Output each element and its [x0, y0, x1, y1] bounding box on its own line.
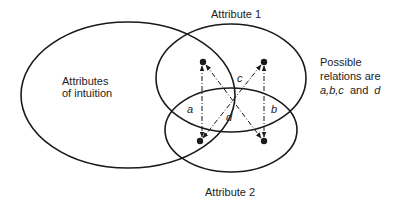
relation-a-label: a	[187, 103, 193, 115]
intuition-label-line1: Attributes	[62, 75, 109, 87]
note-and: and	[350, 84, 368, 96]
note-line2: relations are	[320, 70, 381, 82]
note-line3: a,b,c and d	[320, 84, 381, 96]
relation-d-label: d	[226, 111, 233, 123]
venn-diagram: a b c d Attributes of intuition Attribut…	[0, 0, 403, 205]
note-last-relation: d	[374, 84, 381, 96]
node-attr1-left	[200, 59, 206, 65]
node-attr1-right	[261, 59, 267, 65]
attribute2-ellipse	[165, 88, 297, 172]
intuition-label-line2: of intuition	[62, 87, 112, 99]
node-attr2-right	[261, 138, 267, 144]
intuition-ellipse	[21, 22, 235, 168]
note-line1: Possible	[320, 56, 362, 68]
note-relations-list: a,b,c	[320, 84, 344, 96]
relation-b-label: b	[271, 103, 277, 115]
node-attr2-left	[197, 138, 203, 144]
attribute1-label: Attribute 1	[211, 8, 261, 20]
relation-c-label: c	[237, 72, 243, 84]
attribute2-label: Attribute 2	[205, 186, 255, 198]
